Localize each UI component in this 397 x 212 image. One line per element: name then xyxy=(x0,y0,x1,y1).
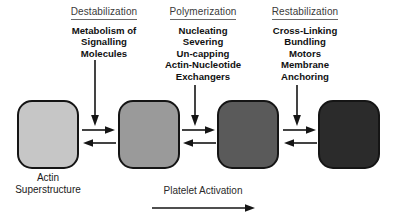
state-box-3 xyxy=(217,100,279,169)
process-label-platelet-activation: Platelet Activation xyxy=(143,185,263,196)
actin-superstructure-diagram: Destabilization Metabolism of Signalling… xyxy=(0,0,397,212)
column-header-label: Polymerization xyxy=(170,6,237,20)
state-box-2 xyxy=(118,100,180,169)
column-body-restabilization: Cross-Linking Bundling Motors Membrane A… xyxy=(245,25,365,82)
column-header-label: Destabilization xyxy=(71,6,138,20)
reversible-arrows-2 xyxy=(182,125,216,153)
column-body-line: Motors xyxy=(245,48,365,59)
caption-line: Superstructure xyxy=(0,184,98,196)
down-arrow-destabilization xyxy=(86,60,104,132)
column-body-line: Cross-Linking xyxy=(245,25,365,36)
caption-line: Actin xyxy=(0,172,98,184)
column-header-label: Restabilization xyxy=(272,6,339,20)
column-header-restabilization: Restabilization xyxy=(245,6,365,20)
reversible-arrows-1 xyxy=(82,125,116,153)
state-box-4 xyxy=(318,100,380,169)
column-body-line: Anchoring xyxy=(245,71,365,82)
process-arrow-right xyxy=(152,200,256,212)
state-box-1 xyxy=(17,100,79,169)
column-body-line: Bundling xyxy=(245,36,365,47)
column-body-line: Membrane xyxy=(245,59,365,70)
caption-actin-superstructure: Actin Superstructure xyxy=(0,172,98,196)
reversible-arrows-3 xyxy=(283,125,317,153)
